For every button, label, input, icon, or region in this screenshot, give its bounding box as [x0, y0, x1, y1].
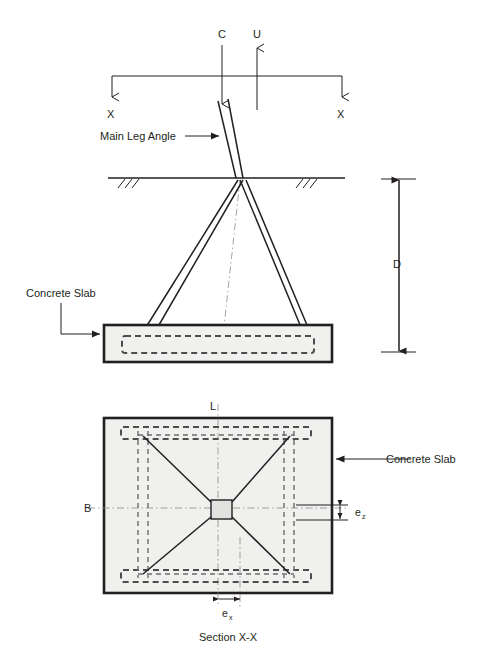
load-arrow-uplift: U	[253, 28, 261, 110]
ecc-z-label: e	[355, 506, 361, 518]
plan-view: L B	[84, 400, 456, 643]
main-leg-angle-callout: Main Leg Angle	[100, 130, 219, 142]
main-leg-angle-label: Main Leg Angle	[100, 130, 176, 142]
concrete-slab-label-elevation: Concrete Slab	[26, 287, 96, 299]
depth-label: D	[393, 258, 401, 270]
concrete-slab-elevation	[104, 325, 332, 362]
elevation-centerline	[222, 180, 240, 345]
plan-width-label: B	[84, 502, 91, 514]
slab-outline-elevation	[104, 325, 332, 362]
ground-hatch-right	[296, 179, 317, 188]
depth-dimension: D	[381, 179, 416, 352]
figure-caption: Section X-X	[199, 631, 258, 643]
load-label-compression: C	[218, 28, 226, 40]
section-cut-line: X X	[107, 76, 345, 120]
load-label-uplift: U	[253, 28, 261, 40]
ecc-z-subscript: z	[362, 513, 366, 520]
ground-hatch-left	[118, 179, 139, 188]
leg-left-below-ground	[143, 180, 243, 337]
leg-right-below-ground	[240, 180, 312, 337]
section-mark-left: X	[107, 108, 115, 120]
concrete-slab-label-plan: Concrete Slab	[386, 453, 456, 465]
load-arrow-compression: C	[218, 28, 226, 104]
ground-line	[108, 178, 345, 188]
ecc-x-label: e	[222, 607, 228, 619]
main-leg-angle-member	[218, 99, 243, 178]
section-mark-right: X	[337, 108, 345, 120]
elevation-view: C U X X Main Leg Angle	[26, 28, 416, 362]
foundation-diagram: C U X X Main Leg Angle	[0, 0, 478, 661]
concrete-slab-callout-plan: Concrete Slab	[336, 453, 456, 465]
concrete-slab-callout-elevation: Concrete Slab	[26, 287, 100, 334]
ecc-x-subscript: x	[229, 614, 233, 621]
plan-length-label: L	[210, 400, 216, 412]
pedestal-plan	[211, 500, 232, 519]
